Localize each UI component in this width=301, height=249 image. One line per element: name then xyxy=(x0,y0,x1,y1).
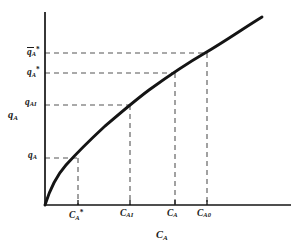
x-tick-label-CAstar: CA* xyxy=(69,209,83,221)
y-tick-label-qAI: qAI xyxy=(25,98,37,108)
x-tick-label-CA0: CA0 xyxy=(197,209,211,219)
x-tick-label-CA: CA xyxy=(167,209,178,219)
x-axis-title: CA xyxy=(156,230,168,242)
isotherm-plot xyxy=(0,0,301,249)
y-tick-label-qAstarbar: qA* xyxy=(27,46,40,58)
y-tick-label-qA: qA xyxy=(28,151,37,161)
figure-canvas: qA* qA* qAI qA CA* CAI CA CA0 qA CA xyxy=(0,0,301,249)
y-axis-title: qA xyxy=(8,110,18,122)
guide-lines xyxy=(45,53,207,205)
y-tick-label-qAstar: qA* xyxy=(27,66,40,78)
x-tick-label-CAI: CAI xyxy=(120,209,133,219)
